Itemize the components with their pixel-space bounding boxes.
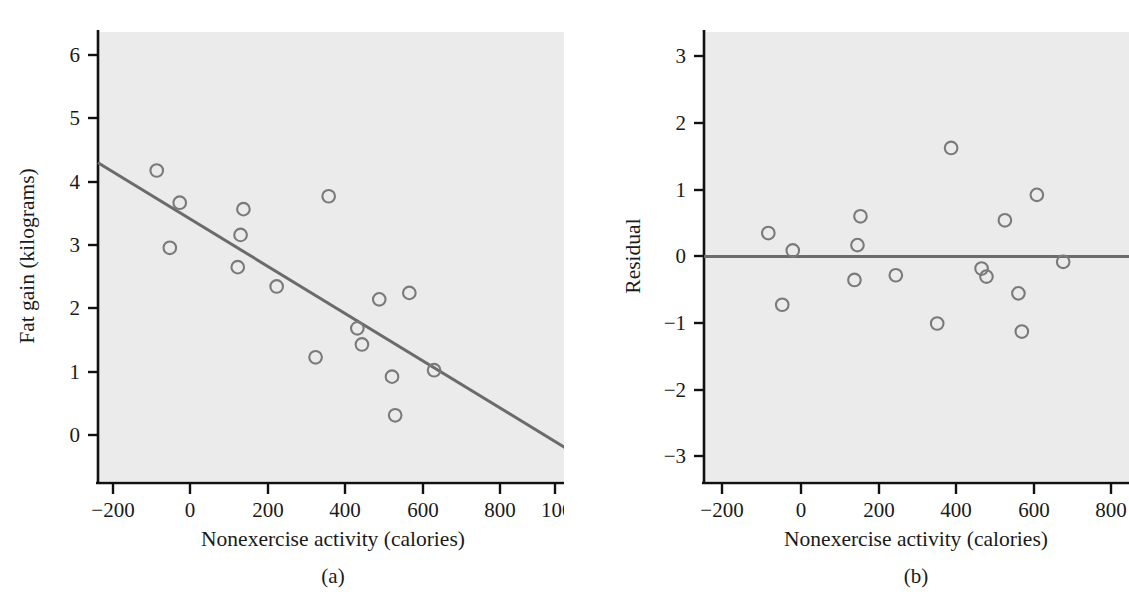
panel-b-x-ticklabel-neg200: −200 bbox=[700, 498, 743, 522]
panel-a-x-ticklabel-0: 0 bbox=[185, 498, 196, 522]
panel-b-x-ticklabel-800: 800 bbox=[1095, 498, 1127, 522]
panel-a-x-axis-title: Nonexercise activity (calories) bbox=[201, 527, 465, 551]
panel-b-x-axis-title: Nonexercise activity (calories) bbox=[784, 527, 1048, 551]
panel-b-residual-plot: 3 2 1 0 −1 −2 −3 −200 0 200 400 600 800 bbox=[564, 0, 1128, 603]
panel-b-y-ticklabel-0: 0 bbox=[676, 244, 687, 268]
panel-a-y-ticklabel-4: 4 bbox=[70, 170, 81, 194]
panel-a-y-ticklabel-1: 1 bbox=[70, 360, 81, 384]
panel-b-y-ticklabel-neg3: −3 bbox=[664, 444, 686, 468]
panel-a-scatterplot: 6 5 4 3 2 1 0 −200 0 200 400 600 80 bbox=[0, 0, 564, 603]
panel-b-x-ticks bbox=[722, 483, 1111, 494]
panel-a-y-axis-title: Fat gain (kilograms) bbox=[15, 168, 39, 344]
panel-a-y-ticklabel-3: 3 bbox=[70, 233, 81, 257]
panel-b-y-ticklabel-2: 2 bbox=[676, 111, 687, 135]
panel-b-y-ticks bbox=[694, 56, 704, 456]
panel-b-y-axis-title: Residual bbox=[621, 218, 645, 293]
panel-a-plot-background bbox=[98, 32, 564, 481]
panel-a-svg: 6 5 4 3 2 1 0 −200 0 200 400 600 80 bbox=[0, 0, 564, 603]
panel-a-y-ticklabel-5: 5 bbox=[70, 106, 81, 130]
figure-container: 6 5 4 3 2 1 0 −200 0 200 400 600 80 bbox=[0, 0, 1129, 603]
panel-a-x-ticklabel-600: 600 bbox=[407, 498, 439, 522]
panel-a-x-ticklabel-1000: 1000 bbox=[541, 498, 564, 522]
panel-a-caption-label: (a) bbox=[321, 564, 344, 588]
panel-b-y-ticklabel-1: 1 bbox=[676, 178, 687, 202]
panel-a-x-ticklabel-800: 800 bbox=[484, 498, 516, 522]
panel-a-y-ticklabel-6: 6 bbox=[70, 43, 81, 67]
panel-a-y-ticks bbox=[88, 55, 98, 435]
panel-a-x-ticklabel-400: 400 bbox=[329, 498, 361, 522]
panel-b-x-ticklabel-0: 0 bbox=[796, 498, 807, 522]
panel-a-x-ticklabel-neg200: −200 bbox=[91, 498, 134, 522]
panel-a-y-ticklabel-0: 0 bbox=[70, 423, 81, 447]
panel-b-x-ticklabel-200: 200 bbox=[863, 498, 895, 522]
panel-b-caption-label: (b) bbox=[904, 564, 929, 588]
panel-b-y-ticklabel-3: 3 bbox=[676, 44, 687, 68]
panel-b-svg: 3 2 1 0 −1 −2 −3 −200 0 200 400 600 800 bbox=[564, 0, 1129, 603]
panel-b-y-ticklabel-neg2: −2 bbox=[664, 378, 686, 402]
panel-b-x-ticklabel-400: 400 bbox=[940, 498, 972, 522]
panel-a-x-ticks bbox=[113, 483, 555, 494]
panel-b-x-ticklabel-600: 600 bbox=[1018, 498, 1050, 522]
panel-b-y-ticklabel-neg1: −1 bbox=[664, 311, 686, 335]
panel-a-y-ticklabel-2: 2 bbox=[70, 296, 81, 320]
panel-a-x-ticklabel-200: 200 bbox=[252, 498, 284, 522]
